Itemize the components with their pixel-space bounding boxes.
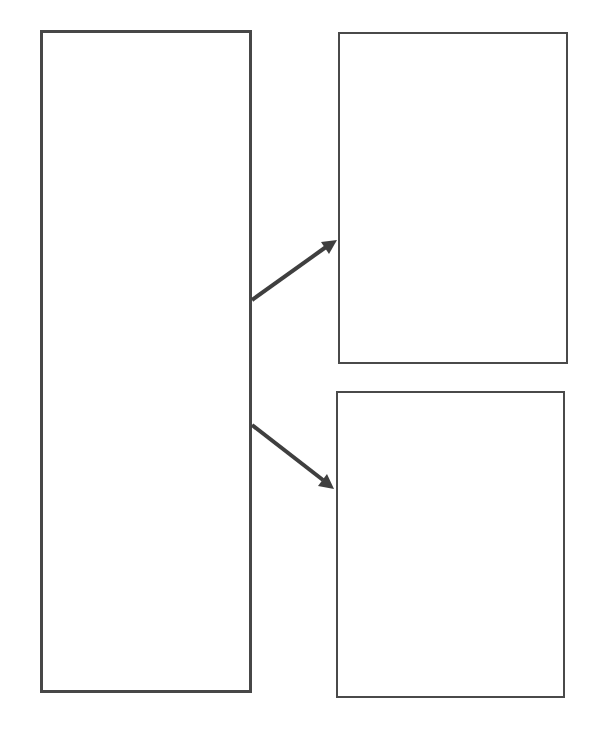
- arrow-down-right: [252, 425, 334, 489]
- arrowhead-icon: [321, 240, 337, 254]
- arrow-up-right: [252, 240, 337, 300]
- bottom-right-box: [336, 391, 565, 698]
- left-box: [40, 30, 252, 693]
- top-right-box: [338, 32, 568, 364]
- arrowhead-icon: [318, 474, 334, 489]
